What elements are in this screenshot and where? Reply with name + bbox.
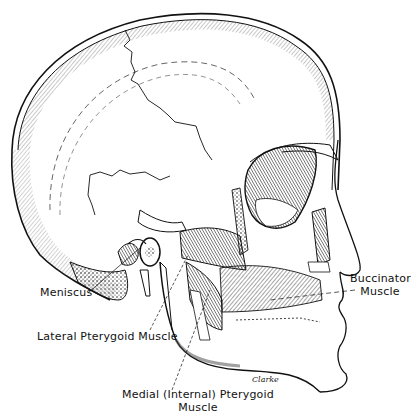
label-lateral-pterygoid-muscle: Lateral Pterygoid Muscle (37, 330, 178, 343)
label-medial-pterygoid-line1: Medial (Internal) Pterygoid (108, 388, 288, 401)
muscles (180, 228, 322, 340)
skull-drawing: Clarke (0, 0, 411, 415)
label-medial-pterygoid-muscle: Medial (Internal) Pterygoid Muscle (108, 388, 288, 414)
label-meniscus: Meniscus (40, 286, 92, 299)
cranial-sutures (88, 30, 212, 215)
zygomatic-arch (138, 210, 186, 232)
label-medial-pterygoid-line2: Muscle (108, 401, 288, 414)
label-buccinator-muscle: Buccinator Muscle (350, 272, 410, 298)
skull-anatomy-illustration: Clarke Meniscus Lateral Pterygoid Muscle… (0, 0, 411, 415)
artist-signature: Clarke (252, 375, 279, 384)
label-buccinator-line2: Muscle (350, 285, 410, 298)
label-buccinator-line1: Buccinator (350, 272, 410, 285)
brain-outline-dashed (50, 62, 255, 215)
face-profile-lower (320, 272, 347, 392)
